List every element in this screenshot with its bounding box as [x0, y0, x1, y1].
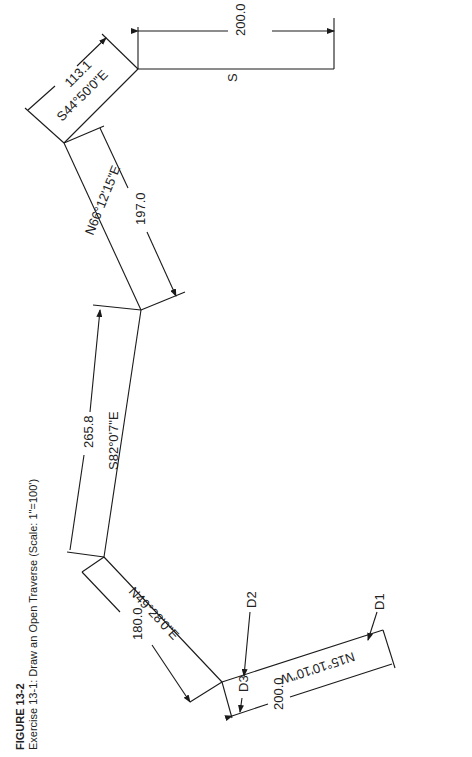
course-3-bearing: S82°0'7"E	[106, 411, 121, 470]
course-6-distance: 200.0	[233, 3, 248, 36]
course-6: 200.0 S	[138, 3, 334, 82]
figure-caption: FIGURE 13-2 Exercise 13-1: Draw an Open …	[14, 580, 194, 750]
callout-d2-label: D2	[244, 591, 259, 608]
callout-d3: D3	[236, 675, 251, 712]
course-3-distance: 265.8	[81, 415, 96, 448]
course-6-bearing: S	[225, 73, 240, 82]
course-4-distance: 197.0	[133, 192, 148, 225]
course-1: 200.0 N15°10'10"W	[222, 630, 395, 718]
callout-d3-label: D3	[236, 675, 251, 692]
course-1-bearing: N15°10'10"W	[278, 649, 357, 687]
figure-number: FIGURE 13-2	[14, 479, 27, 750]
figure-caption-text: Exercise 13-1: Draw an Open Traverse (Sc…	[27, 479, 40, 750]
course-3: 265.8 S82°0'7"E	[67, 305, 141, 557]
callout-d1-label: D1	[372, 593, 387, 610]
course-5: 113.1 S44°50'0"E	[25, 34, 138, 143]
callout-d2: D2	[244, 591, 259, 676]
course-4: 197.0 N66°12'15"E	[64, 126, 185, 310]
